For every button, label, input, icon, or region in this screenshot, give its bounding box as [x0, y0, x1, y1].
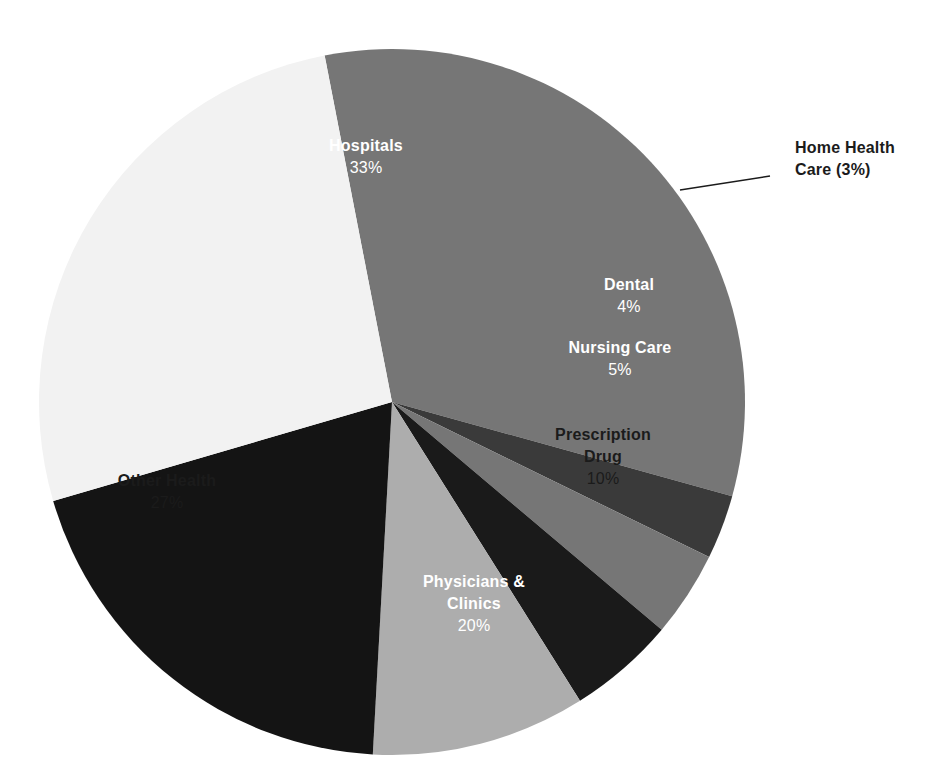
pie-slices-group	[39, 49, 745, 755]
slice-label-line: Other Health	[118, 472, 216, 489]
slice-label-line: 5%	[608, 361, 632, 378]
slice-label-line: Drug	[584, 448, 622, 465]
slice-label-line: Care (3%)	[795, 161, 871, 178]
slice-label-home-health-care: Home HealthCare (3%)	[795, 139, 895, 178]
pie-chart-container: Hospitals33%Home HealthCare (3%)Dental4%…	[0, 0, 940, 776]
slice-label-line: Clinics	[447, 595, 501, 612]
slice-label-line: 33%	[350, 159, 383, 176]
slice-label-line: Physicians &	[423, 573, 525, 590]
slice-label-line: 20%	[458, 617, 491, 634]
slice-label-line: 4%	[617, 298, 641, 315]
pie-chart-svg: Hospitals33%Home HealthCare (3%)Dental4%…	[0, 0, 940, 776]
slice-label-line: 10%	[587, 470, 620, 487]
slice-label-line: 27%	[151, 494, 184, 511]
callout-leader-group	[680, 176, 770, 190]
slice-label-line: Home Health	[795, 139, 895, 156]
slice-label-line: Nursing Care	[569, 339, 672, 356]
slice-label-line: Dental	[604, 276, 654, 293]
callout-leader-line	[680, 176, 770, 190]
slice-label-line: Hospitals	[329, 137, 403, 154]
slice-label-line: Prescription	[555, 426, 651, 443]
